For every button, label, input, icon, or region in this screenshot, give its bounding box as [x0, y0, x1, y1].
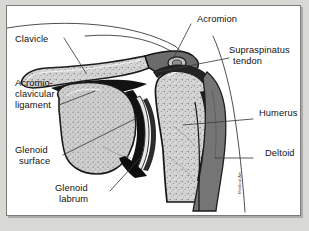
label-deltoid: Deltoid [265, 148, 295, 159]
label-glenoid-surface-line2: surface [19, 156, 50, 167]
label-supraspinatus-line1: Supraspinatus [229, 45, 290, 56]
label-acromioclavicular-line3: ligament [15, 100, 51, 111]
label-glenoid-labrum-line2: labrum [59, 194, 88, 205]
label-acromion: Acromion [197, 14, 237, 25]
label-clavicle: Clavicle [15, 34, 48, 45]
label-acromioclavicular-line1: Acromio- [15, 78, 53, 89]
label-humerus: Humerus [259, 108, 297, 119]
label-acromioclavicular-line2: clavicular [15, 89, 55, 100]
illustration-panel: Medical Art Clavicle Acromio- clavicular… [6, 5, 301, 216]
label-glenoid-labrum-line1: Glenoid [55, 183, 88, 194]
figure-root: Medical Art Clavicle Acromio- clavicular… [0, 0, 309, 231]
artist-signature: Medical Art [237, 172, 242, 194]
label-supraspinatus-line2: tendon [233, 56, 262, 67]
label-glenoid-surface-line1: Glenoid [15, 145, 48, 156]
